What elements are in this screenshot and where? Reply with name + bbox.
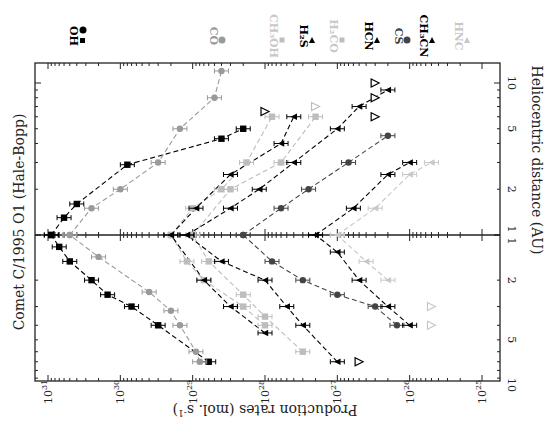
series-oh xyxy=(44,107,269,365)
legend-item-cs: CS xyxy=(392,28,411,45)
fit-line-ch3oh-pre xyxy=(171,235,265,325)
fit-line-oh-post xyxy=(51,129,243,235)
svg-text:CH₃CN: CH₃CN xyxy=(417,15,430,58)
svg-text:OH: OH xyxy=(67,26,80,46)
svg-text:HCN: HCN xyxy=(362,21,375,50)
legend-item-h2s: H₂S xyxy=(297,24,315,47)
fit-line-ch3cn-post xyxy=(316,163,410,236)
legend-item-hnc: HNC xyxy=(452,21,470,50)
fit-line-co-pre xyxy=(70,235,200,362)
distance-tick-label: 2 xyxy=(505,186,518,193)
production-rate-tick-label: 1027 xyxy=(329,380,344,404)
series-ch3oh xyxy=(164,114,279,329)
data-points xyxy=(44,68,438,366)
legend: OHCOCH₃OHH₂SH₂COHCNCSCH₃CNHNC xyxy=(67,14,470,58)
legend-item-co: CO xyxy=(207,27,226,46)
svg-text:CS: CS xyxy=(392,28,405,45)
production-rate-tick-label: 1026 xyxy=(402,380,417,404)
production-rate-tick-label: 1030 xyxy=(112,380,127,404)
legend-item-oh: OH xyxy=(67,26,87,46)
production-rate-tick-label: 1025 xyxy=(474,380,489,404)
svg-text:CH₃OH: CH₃OH xyxy=(267,14,280,58)
series-hcn xyxy=(180,79,395,366)
svg-text:H₂S: H₂S xyxy=(297,24,310,47)
legend-item-hcn: HCN xyxy=(362,21,380,50)
svg-text:CO: CO xyxy=(207,27,220,46)
production-rate-chart: Comet C/1995 O1 (Hale-Bopp) 103110301029… xyxy=(0,0,552,441)
distance-tick-label: 10 xyxy=(505,76,518,90)
series-h2s xyxy=(164,114,301,337)
distance-tick-label: 10 xyxy=(505,378,518,392)
svg-text:HNC: HNC xyxy=(452,21,465,50)
fit-line-hcn-pre xyxy=(187,235,337,362)
distance-tick-labels: 1251010521 xyxy=(505,76,518,392)
chart-title: Comet C/1995 O1 (Hale-Bopp) xyxy=(11,114,27,331)
distance-tick-label: 2 xyxy=(505,277,518,284)
fit-line-hnc-post xyxy=(337,163,431,236)
production-rate-axis-label: Production rates (mol. s-1) xyxy=(173,402,358,418)
legend-item-ch3cn: CH₃CN xyxy=(417,15,435,58)
production-rate-tick-label: 1029 xyxy=(185,380,200,404)
distance-tick-label: 1 xyxy=(505,226,518,233)
production-rate-tick-labels: 1031103010291028102710261025 xyxy=(40,380,489,404)
production-rate-tick-label: 1031 xyxy=(40,380,55,404)
legend-item-ch3oh: CH₃OH xyxy=(267,14,285,58)
production-rate-tick-label: 1028 xyxy=(257,380,272,404)
heliocentric-distance-axis-label: Heliocentric distance (AU) xyxy=(529,65,545,254)
distance-tick-label: 1 xyxy=(505,238,518,245)
svg-text:H₂CO: H₂CO xyxy=(327,19,340,53)
distance-tick-label: 5 xyxy=(505,336,518,343)
legend-item-h2co: H₂CO xyxy=(327,19,345,53)
series-cs xyxy=(236,133,404,329)
series-h2co xyxy=(186,103,323,355)
distance-tick-label: 5 xyxy=(505,125,518,132)
series-ch3cn xyxy=(309,113,417,329)
fit-line-h2s-pre xyxy=(171,235,265,333)
series-co xyxy=(63,68,229,365)
fit-line-hnc-pre xyxy=(337,235,388,280)
fit-line-h2co-post xyxy=(193,117,316,235)
